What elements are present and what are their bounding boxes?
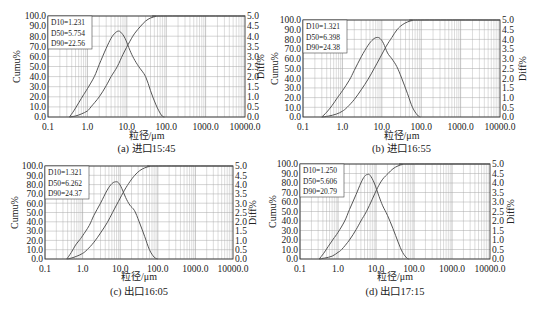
stats-legend: D10=1.321D50=6.398D90=24.38 [303, 20, 347, 53]
y-left-tick-label: 90.0 [284, 25, 301, 35]
x-tick-label: 1000.0 [182, 264, 208, 274]
y-left-tick-label: 10.0 [284, 103, 301, 113]
chart-panel-a: D10=1.231D50=5.754D90=22.560.11.010.0100… [0, 0, 268, 156]
stats-label: D50=5.754 [51, 29, 85, 38]
y-left-tick-label: 50.0 [284, 64, 301, 74]
y-right-tick-label: 1.5 [502, 83, 514, 93]
y-left-tick-label: 0.0 [286, 254, 298, 264]
y-left-axis-title: Cumu% [9, 196, 20, 229]
y-left-tick-label: 0.0 [289, 112, 301, 122]
y-left-tick-label: 80.0 [29, 32, 46, 42]
y-right-tick-label: 3.0 [502, 54, 514, 64]
y-right-tick-label: 4.5 [502, 25, 514, 35]
y-right-tick-label: 4.0 [247, 32, 259, 42]
y-left-tick-label: 80.0 [284, 35, 301, 45]
x-tick-label: 10000.0 [475, 264, 506, 274]
chart-caption: (c) 出口16:05 [110, 285, 168, 298]
y-right-tick-label: 5.0 [235, 161, 247, 171]
y-right-tick-label: 4.0 [235, 180, 247, 190]
y-right-tick-label: 2.0 [235, 217, 247, 227]
stats-label: D10=1.321 [306, 22, 340, 31]
stats-label: D10=1.321 [48, 168, 82, 177]
x-tick-label: 1000.0 [439, 264, 465, 274]
y-left-tick-label: 100.0 [277, 159, 299, 169]
y-right-tick-label: 2.0 [502, 74, 514, 84]
y-left-tick-label: 80.0 [26, 180, 43, 190]
y-left-tick-label: 50.0 [29, 62, 46, 72]
y-right-tick-label: 3.0 [235, 199, 247, 209]
y-left-tick-label: 100.0 [25, 11, 47, 21]
y-right-tick-label: 4.0 [502, 35, 514, 45]
y-left-tick-label: 50.0 [281, 207, 298, 217]
y-right-axis-title: Diff% [255, 54, 266, 79]
y-left-tick-label: 30.0 [26, 226, 43, 236]
y-right-tick-label: 0.5 [235, 245, 247, 255]
y-left-tick-label: 100.0 [280, 15, 302, 25]
x-tick-label: 0.1 [39, 264, 51, 274]
y-right-tick-label: 1.5 [235, 226, 247, 236]
y-right-tick-label: 1.0 [247, 92, 259, 102]
y-left-tick-label: 100.0 [22, 161, 44, 171]
x-tick-label: 0.1 [294, 264, 306, 274]
x-axis-title: 粒径/μm [384, 129, 420, 141]
y-left-tick-label: 10.0 [281, 245, 298, 255]
chart-panel-c: D10=1.321D50=6.262D90=24.370.11.010.0100… [0, 156, 268, 312]
y-right-tick-label: 5.0 [247, 11, 259, 21]
y-left-tick-label: 20.0 [29, 92, 46, 102]
y-left-tick-label: 40.0 [284, 74, 301, 84]
y-left-tick-label: 60.0 [281, 197, 298, 207]
y-right-tick-label: 0.5 [502, 103, 514, 113]
y-left-tick-label: 40.0 [281, 216, 298, 226]
y-right-tick-label: 0.0 [502, 112, 514, 122]
y-left-tick-label: 20.0 [26, 236, 43, 246]
y-right-tick-label: 0.5 [247, 102, 259, 112]
y-left-tick-label: 90.0 [281, 169, 298, 179]
y-left-tick-label: 60.0 [29, 52, 46, 62]
y-right-tick-label: 0.0 [235, 254, 247, 264]
stats-legend: D10=1.250D50=5.606D90=20.79 [300, 164, 344, 197]
x-tick-label: 1000.0 [448, 122, 474, 132]
y-left-tick-label: 90.0 [26, 171, 43, 181]
y-left-tick-label: 90.0 [29, 21, 46, 31]
y-left-tick-label: 10.0 [26, 245, 43, 255]
y-left-tick-label: 10.0 [29, 102, 46, 112]
y-left-axis-title: Cumu% [11, 50, 22, 83]
x-tick-label: 10000.0 [230, 122, 261, 132]
y-left-tick-label: 70.0 [281, 188, 298, 198]
y-right-tick-label: 2.0 [492, 216, 504, 226]
x-axis-title: 粒径/μm [377, 270, 413, 282]
x-axis-title: 粒径/μm [129, 129, 165, 141]
y-left-tick-label: 30.0 [284, 83, 301, 93]
y-right-tick-label: 1.0 [492, 235, 504, 245]
y-right-tick-label: 3.0 [492, 197, 504, 207]
x-tick-label: 1.0 [81, 122, 93, 132]
y-left-tick-label: 20.0 [281, 235, 298, 245]
y-left-tick-label: 70.0 [26, 189, 43, 199]
y-right-tick-label: 4.5 [235, 171, 247, 181]
y-right-tick-label: 3.5 [235, 189, 247, 199]
y-right-tick-label: 5.0 [502, 15, 514, 25]
stats-label: D90=20.79 [303, 187, 337, 196]
y-right-tick-label: 4.5 [492, 169, 504, 179]
y-right-tick-label: 2.5 [235, 208, 247, 218]
y-right-tick-label: 1.0 [235, 236, 247, 246]
y-right-tick-label: 0.0 [247, 112, 259, 122]
y-right-tick-label: 1.0 [502, 93, 514, 103]
stats-label: D90=24.38 [306, 43, 340, 52]
y-left-tick-label: 70.0 [284, 44, 301, 54]
y-right-tick-label: 2.5 [502, 64, 514, 74]
stats-legend: D10=1.321D50=6.262D90=24.37 [45, 166, 89, 199]
x-tick-label: 1000.0 [193, 122, 219, 132]
x-tick-label: 0.1 [297, 122, 309, 132]
chart-caption: (d) 出口17:15 [366, 285, 425, 298]
y-right-axis-title: Diff% [517, 56, 528, 81]
x-tick-label: 1.0 [336, 122, 348, 132]
y-left-tick-label: 80.0 [281, 178, 298, 188]
y-right-tick-label: 4.0 [492, 178, 504, 188]
x-tick-label: 10000.0 [485, 122, 516, 132]
stats-label: D50=6.262 [48, 179, 82, 188]
y-left-tick-label: 0.0 [34, 112, 46, 122]
y-left-tick-label: 40.0 [26, 217, 43, 227]
stats-legend: D10=1.231D50=5.754D90=22.56 [48, 16, 92, 49]
x-tick-label: 1.0 [77, 264, 89, 274]
